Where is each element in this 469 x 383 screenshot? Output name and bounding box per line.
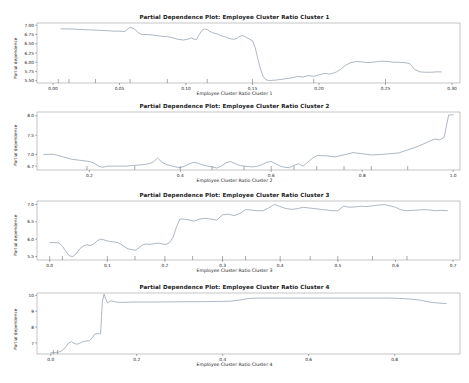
y-axis-label-3: Partial dependence — [13, 215, 18, 256]
x-tick-label: 0.30 — [447, 86, 457, 91]
x-axis-label-2: Employee Cluster Ratio Cluster 2 — [0, 178, 469, 183]
x-tick-label: 0.4 — [219, 357, 226, 362]
x-tick-label: 0.5 — [334, 263, 341, 268]
x-tick-label: 0.2 — [133, 357, 140, 362]
partial-dependence-curve — [50, 204, 448, 256]
x-axis-label-3: Employee Cluster Ratio Cluster 3 — [0, 268, 469, 273]
y-tick-label: 6.00 — [24, 60, 34, 65]
pdp-axes-1: 5.505.756.006.256.506.757.000.000.050.10… — [0, 14, 469, 103]
x-tick-label: 0.4 — [177, 173, 184, 178]
x-tick-label: 0.00 — [48, 86, 58, 91]
y-tick-label: 7.5 — [27, 133, 34, 138]
x-tick-label: 0.05 — [115, 86, 125, 91]
pdp-panel-3: Partial Dependence Plot: Employee Cluste… — [0, 192, 469, 284]
x-tick-label: 0.4 — [277, 263, 284, 268]
y-axis-label-1: Partial dependence — [13, 38, 18, 79]
x-tick-label: 0.15 — [248, 86, 258, 91]
pdp-panel-1: Partial Dependence Plot: Employee Cluste… — [0, 14, 469, 103]
x-tick-label: 0.0 — [47, 357, 54, 362]
y-axis-label-2: Partial dependence — [13, 125, 18, 166]
x-tick-label: 0.8 — [391, 357, 398, 362]
x-axis-label-1: Employee Cluster Ratio Cluster 1 — [0, 91, 469, 96]
y-tick-label: 7.0 — [27, 152, 34, 157]
partial-dependence-curve — [61, 27, 441, 80]
pdp-panel-4: Partial Dependence Plot: Employee Cluste… — [0, 284, 469, 383]
x-tick-label: 0.8 — [359, 173, 366, 178]
y-tick-label: 5.50 — [24, 78, 34, 83]
x-tick-label: 0.1 — [104, 263, 111, 268]
x-tick-label: 0.20 — [314, 86, 324, 91]
plot-frame — [37, 23, 460, 83]
y-tick-label: 6.50 — [24, 41, 34, 46]
plot-frame — [37, 293, 460, 354]
y-tick-label: 7 — [31, 341, 34, 346]
x-tick-label: 0.6 — [392, 263, 399, 268]
partial-dependence-curve — [51, 294, 446, 353]
x-tick-label: 0.3 — [219, 263, 226, 268]
x-tick-label: 0.10 — [181, 86, 191, 91]
y-axis-label-4: Partial dependence — [13, 309, 18, 350]
y-tick-label: 5.5 — [27, 254, 34, 259]
x-tick-label: 1.0 — [450, 173, 457, 178]
y-tick-label: 9 — [31, 309, 34, 314]
x-tick-label: 0.2 — [162, 263, 169, 268]
x-tick-label: 0.25 — [381, 86, 391, 91]
x-tick-label: 0.0 — [46, 263, 53, 268]
x-tick-label: 0.7 — [450, 263, 457, 268]
y-tick-label: 6.0 — [27, 237, 34, 242]
partial-dependence-figure: Partial Dependence Plot: Employee Cluste… — [0, 0, 469, 383]
y-tick-label: 10 — [29, 293, 35, 298]
x-axis-label-4: Employee Cluster Ratio Cluster 4 — [0, 362, 469, 367]
y-tick-label: 8 — [31, 325, 34, 330]
y-tick-label: 6.25 — [24, 51, 34, 56]
plot-frame — [37, 112, 460, 170]
y-tick-label: 6.7 — [27, 164, 34, 169]
partial-dependence-curve — [44, 115, 453, 168]
pdp-panel-2: Partial Dependence Plot: Employee Cluste… — [0, 103, 469, 192]
x-tick-label: 0.6 — [305, 357, 312, 362]
y-tick-label: 7.00 — [24, 23, 34, 28]
pdp-axes-4: 789100.00.20.40.60.8 — [0, 284, 469, 383]
y-tick-label: 5.75 — [24, 69, 34, 74]
x-tick-label: 0.2 — [86, 173, 93, 178]
y-tick-label: 8.0 — [27, 113, 34, 118]
x-tick-label: 0.6 — [268, 173, 275, 178]
y-tick-label: 7.0 — [27, 202, 34, 207]
y-tick-label: 6.5 — [27, 219, 34, 224]
y-tick-label: 6.75 — [24, 32, 34, 37]
